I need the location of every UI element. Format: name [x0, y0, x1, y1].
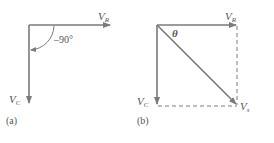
vr-label-b: VR [225, 10, 237, 24]
vc-label-a: VC [9, 93, 21, 107]
figure-b: VR θ VC Vs (b) [137, 10, 250, 127]
theta-label-b: θ [172, 27, 178, 39]
vs-vector-b [157, 25, 236, 104]
phasor-diagram: VR –90° VC (a) VR θ VC Vs (b) [0, 0, 274, 143]
angle-arc-a [31, 26, 54, 50]
angle-label-a: –90° [53, 34, 73, 45]
figure-a: VR –90° VC (a) [6, 10, 110, 127]
caption-b: (b) [137, 115, 149, 127]
vr-label-a: VR [98, 10, 110, 24]
caption-a: (a) [6, 115, 17, 127]
vc-label-b: VC [137, 95, 149, 109]
vs-label-b: Vs [240, 100, 250, 114]
